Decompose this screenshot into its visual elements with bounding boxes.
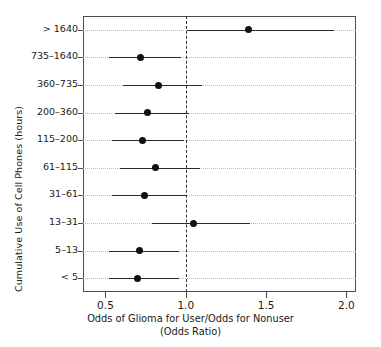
data-point	[139, 137, 146, 144]
data-point	[144, 109, 151, 116]
confidence-interval-bar	[109, 278, 180, 279]
y-axis-tick-label: 61–115	[43, 161, 78, 172]
y-axis-tick-label: < 5	[61, 271, 78, 282]
data-point	[155, 82, 162, 89]
y-axis-tick-labels: > 1640735–1640360–735200–360115–20061–11…	[0, 16, 78, 292]
y-axis-tick-label: 200–360	[37, 106, 78, 117]
y-axis-tick-label: 360–735	[37, 78, 78, 89]
x-axis-tick-label: 0.5	[97, 299, 114, 311]
y-axis-tick-label: > 1640	[43, 23, 78, 34]
data-point	[141, 192, 148, 199]
x-axis-title: Odds of Glioma for User/Odds for Nonuser	[0, 312, 381, 325]
data-point	[136, 247, 143, 254]
x-axis-tick-mark	[346, 292, 347, 298]
data-point	[190, 220, 197, 227]
y-axis-tick-label: 115–200	[37, 133, 78, 144]
x-axis-tick-mark	[105, 292, 106, 298]
data-point	[245, 26, 252, 33]
confidence-interval-bar	[112, 195, 186, 196]
confidence-interval-bar	[109, 251, 180, 252]
confidence-interval-bar	[109, 57, 181, 58]
x-axis-tick-label: 1.0	[177, 299, 194, 311]
data-point	[152, 164, 159, 171]
data-point	[134, 275, 141, 282]
y-axis-tick-label: 31–61	[49, 188, 78, 199]
y-axis-tick-label: 5–13	[55, 244, 78, 255]
x-axis-title-container: Odds of Glioma for User/Odds for Nonuser…	[0, 312, 381, 338]
y-axis-tick-label: 13–31	[49, 216, 78, 227]
x-axis-title-subtitle: (Odds Ratio)	[0, 325, 381, 338]
confidence-interval-bar	[112, 140, 184, 141]
x-axis-tick-label: 2.0	[338, 299, 355, 311]
x-axis-tick-label: 1.5	[258, 299, 275, 311]
confidence-interval-bar	[187, 30, 333, 31]
confidence-interval-bar	[152, 223, 250, 224]
confidence-interval-bar	[123, 85, 202, 86]
reference-line-or-1	[186, 16, 187, 292]
confidence-interval-bar	[120, 168, 200, 169]
x-axis-tick-mark	[186, 292, 187, 298]
x-axis-tick-mark	[266, 292, 267, 298]
forest-plot-figure: Cumulative Use of Cell Phones (hours) > …	[0, 0, 381, 347]
plot-area	[83, 16, 356, 292]
y-axis-tick-label: 735–1640	[31, 50, 78, 61]
confidence-interval-bar	[115, 113, 189, 114]
data-point	[137, 54, 144, 61]
